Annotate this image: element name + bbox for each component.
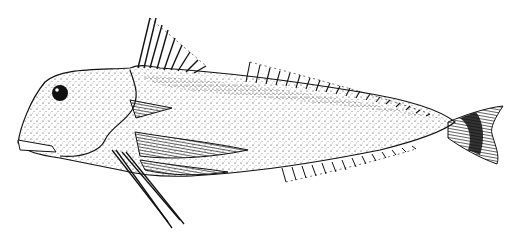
fish-drawing <box>0 0 520 247</box>
eye <box>52 85 68 101</box>
fish-illustration <box>0 0 520 247</box>
first-dorsal-fin <box>138 18 206 73</box>
fish-body <box>18 66 455 177</box>
